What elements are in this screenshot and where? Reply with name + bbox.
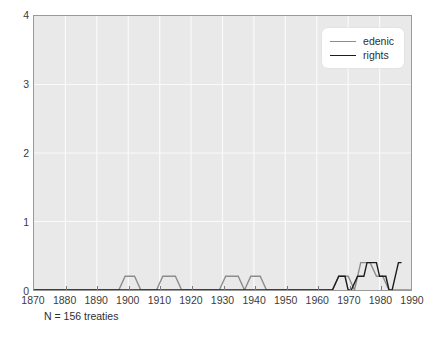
x-tick-label: 1970 — [337, 294, 360, 306]
x-tick-mark — [287, 286, 288, 290]
x-tick-mark — [160, 286, 161, 290]
x-axis: 1870188018901900191019201930194019501960… — [33, 294, 412, 308]
x-tick-label: 1950 — [274, 294, 297, 306]
x-tick-label: 1960 — [306, 294, 329, 306]
x-tick-label: 1900 — [116, 294, 139, 306]
x-tick-label: 1870 — [21, 294, 44, 306]
y-tick-label: 3 — [3, 79, 29, 89]
legend-label-edenic: edenic — [363, 35, 394, 47]
x-tick-label: 1930 — [211, 294, 234, 306]
legend-item-edenic: edenic — [330, 34, 394, 48]
legend-swatch-edenic — [330, 41, 356, 42]
x-tick-mark — [97, 286, 98, 290]
x-tick-label: 1980 — [369, 294, 392, 306]
x-tick-mark — [129, 286, 130, 290]
chart-figure: 01234 edenic rights 18701880189019001910… — [0, 0, 444, 337]
legend-swatch-rights — [330, 55, 356, 56]
x-tick-label: 1990 — [400, 294, 423, 306]
x-tick-mark — [66, 286, 67, 290]
x-tick-mark — [350, 286, 351, 290]
x-tick-label: 1910 — [148, 294, 171, 306]
y-tick-label: 4 — [3, 10, 29, 20]
legend-item-rights: rights — [330, 48, 394, 62]
sample-size-caption: N = 156 treaties — [44, 310, 118, 322]
legend-label-rights: rights — [363, 49, 389, 61]
x-tick-mark — [255, 286, 256, 290]
x-tick-mark — [224, 286, 225, 290]
x-tick-mark — [381, 286, 382, 290]
x-tick-mark — [192, 286, 193, 290]
legend: edenic rights — [322, 28, 404, 68]
series-line-edenic — [34, 263, 411, 290]
y-tick-label: 1 — [3, 217, 29, 227]
x-tick-label: 1920 — [179, 294, 202, 306]
y-tick-label: 2 — [3, 148, 29, 158]
y-axis: 01234 — [0, 15, 29, 291]
x-tick-label: 1890 — [84, 294, 107, 306]
x-tick-label: 1940 — [242, 294, 265, 306]
x-tick-mark — [318, 286, 319, 290]
x-tick-label: 1880 — [53, 294, 76, 306]
plot-area: edenic rights — [33, 15, 412, 291]
